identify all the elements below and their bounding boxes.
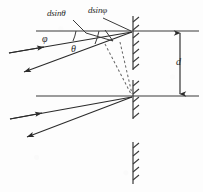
grating-bottom-hatches	[133, 81, 139, 118]
arc-phi	[73, 31, 76, 41]
dashed-perp-incident	[105, 44, 131, 94]
angle-theta-label: θ	[71, 44, 76, 54]
path-difference-theta-label: dsinθ	[47, 9, 65, 18]
grating-top-hatches	[133, 17, 139, 69]
dashed-construction-lines	[105, 42, 132, 94]
rays-lower	[10, 97, 132, 137]
label-leader-lines	[73, 18, 131, 41]
path-difference-phi-label: dsinφ	[88, 6, 107, 15]
leader-phi	[103, 18, 131, 31]
lattice-planes	[36, 31, 199, 96]
leader-wedge-lower	[86, 33, 113, 41]
scattered-ray-bottom	[27, 97, 132, 137]
scattered-ray-top	[24, 32, 132, 72]
figure-canvas	[0, 0, 203, 192]
diffraction-grating-figure: dsinθ dsinφ φ θ d	[0, 0, 203, 192]
incident-ray-top-arrowhead	[9, 47, 44, 53]
grating-bottom	[133, 80, 139, 119]
spacing-d-label: d	[176, 57, 181, 67]
dashed-perp-scattered	[120, 42, 132, 94]
grating-detached-hatches	[133, 143, 139, 180]
grating-detached	[133, 142, 139, 184]
incident-ray-bottom-arrowhead	[10, 113, 42, 119]
grating-top	[133, 16, 139, 70]
angle-phi-label: φ	[42, 34, 48, 44]
